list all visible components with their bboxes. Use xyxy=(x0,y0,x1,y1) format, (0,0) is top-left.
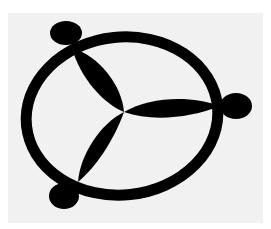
lobe-right xyxy=(124,99,220,118)
knob-right xyxy=(220,93,252,119)
knob-top-left xyxy=(50,21,82,45)
lobe-upper-left xyxy=(72,48,124,112)
lobe-lower-left xyxy=(78,112,124,182)
knob-bottom-left xyxy=(49,183,79,209)
symbol-figure xyxy=(0,0,271,229)
